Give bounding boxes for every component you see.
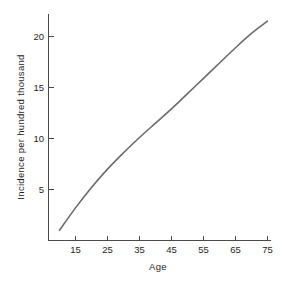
chart-figure: 20 15 10 5 15 25 35 45 55 65 75 Age Inci… <box>0 0 285 281</box>
y-tick-label-20: 20 <box>33 31 44 42</box>
x-tick-label-15: 15 <box>70 244 81 255</box>
y-tick-labels: 20 15 10 5 <box>33 31 44 195</box>
incidence-vs-age-line-chart: 20 15 10 5 15 25 35 45 55 65 75 Age Inci… <box>0 0 285 281</box>
x-axis-title: Age <box>149 261 167 272</box>
x-tick-labels: 15 25 35 45 55 65 75 <box>70 244 273 255</box>
y-tick-label-15: 15 <box>33 82 44 93</box>
y-axis-ticks <box>49 37 55 190</box>
x-tick-label-55: 55 <box>198 244 209 255</box>
x-tick-label-25: 25 <box>102 244 113 255</box>
x-tick-label-65: 65 <box>230 244 241 255</box>
x-tick-label-45: 45 <box>166 244 177 255</box>
x-tick-label-75: 75 <box>262 244 273 255</box>
y-axis-title: Incidence per hundred thousand <box>15 54 26 199</box>
y-tick-label-10: 10 <box>33 133 44 144</box>
x-tick-label-35: 35 <box>134 244 145 255</box>
x-axis-ticks <box>76 236 268 241</box>
incidence-curve <box>60 21 268 230</box>
y-tick-label-5: 5 <box>39 184 44 195</box>
